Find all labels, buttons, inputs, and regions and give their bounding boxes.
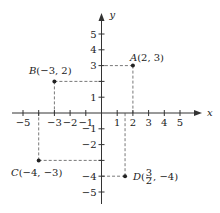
x-axis-label: x [207,107,213,118]
y-tick-label: 4 [90,44,96,55]
y-tick-label: −5 [82,187,97,198]
y-tick-label: −4 [82,171,97,182]
x-tick-label: 4 [161,117,167,128]
point-D [123,174,127,178]
point-label-B: B(−3, 2) [28,65,72,76]
point-label-D-rest: , −4) [153,171,178,182]
x-tick-label: 5 [177,117,183,128]
x-axis-arrow-icon [194,110,202,116]
y-tick-label: −1 [82,123,97,134]
y-tick-label: 5 [90,29,96,40]
x-tick-label: −5 [16,117,31,128]
x-tick-label: 2 [130,117,136,128]
y-tick-label: 3 [90,60,96,71]
y-axis-label: y [109,9,116,20]
x-tick-label: 1 [114,117,120,128]
y-tick-label: 1 [90,92,96,103]
coordinate-plane: xy−5−3−2−1123455431−1−2−4−5A(2, 3)B(−3, … [0,0,220,213]
point-label-D: D( [132,171,145,182]
point-A [131,64,135,68]
point-label-C: C(−4, −3) [11,167,62,178]
y-axis-arrow-icon [99,13,105,21]
x-tick-label: 3 [145,117,151,128]
x-tick-label: −2 [63,117,78,128]
y-tick-label: −2 [82,139,97,150]
point-label-A: A(2, 3) [129,52,164,63]
x-tick-label: −3 [47,117,62,128]
point-B [52,79,56,83]
point-C [37,158,41,162]
fraction-denominator: 2 [146,175,152,186]
